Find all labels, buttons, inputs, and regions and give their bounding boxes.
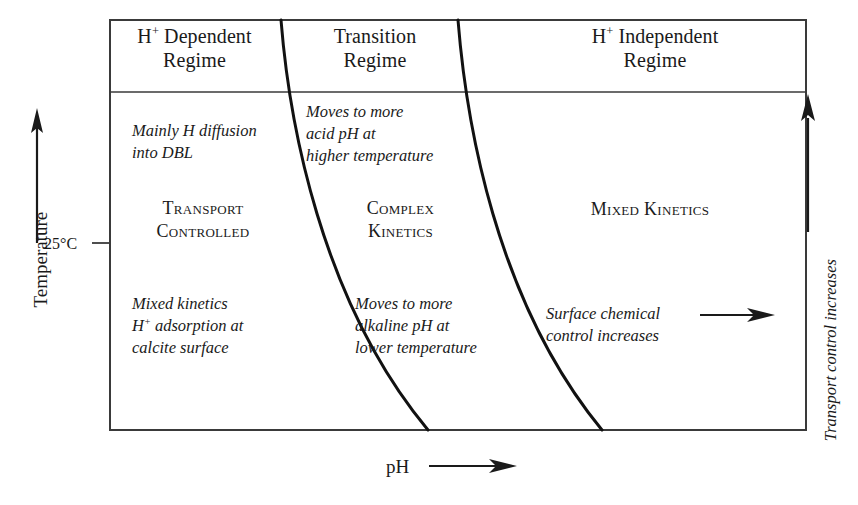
h-independent-suffix: Independent [613, 25, 718, 47]
transport-control-label: Transport control increases [821, 235, 841, 465]
note-surface-line2: control increases [546, 325, 726, 347]
right-boundary-curve [458, 20, 602, 430]
h-dependent-suffix: Dependent [159, 25, 252, 47]
label-transport-controlled: Transport Controlled [128, 197, 278, 244]
temperature-tick-label: 25°C [44, 234, 77, 254]
label-mixed-kinetics-line1: Mixed Kinetics [530, 198, 770, 221]
label-transport-line1: Transport [128, 197, 278, 220]
h-plus-prefix: H [137, 25, 152, 47]
note-alkaline-line1: Moves to more [355, 293, 550, 315]
regime-title-transition: Transition Regime [300, 24, 450, 73]
label-complex-line2: Kinetics [333, 220, 468, 243]
note-acid-line2: acid pH at [306, 123, 506, 145]
regime-title-h-dependent: H+ Dependent Regime [112, 24, 277, 73]
regime-title-transition-line2: Regime [300, 48, 450, 72]
diagram-graphics [0, 0, 858, 505]
regime-title-h-independent-line2: Regime [540, 48, 770, 72]
note-mainly-h-diffusion: Mainly H diffusion into DBL [132, 120, 297, 164]
note-mainly-line2: into DBL [132, 142, 297, 164]
note-acid-line1: Moves to more [306, 101, 506, 123]
label-complex-line1: Complex [333, 197, 468, 220]
h-plus-prefix-2: H [592, 25, 607, 47]
note-alkaline-line3: lower temperature [355, 337, 550, 359]
ph-axis-arrow [429, 459, 517, 473]
label-complex-kinetics: Complex Kinetics [333, 197, 468, 244]
note-mixed-line1: Mixed kinetics [132, 293, 307, 315]
note-surface-chemical-control: Surface chemical control increases [546, 303, 726, 347]
note-moves-acid-ph: Moves to more acid pH at higher temperat… [306, 101, 506, 166]
note-moves-alkaline-ph: Moves to more alkaline pH at lower tempe… [355, 293, 550, 358]
regime-title-h-dependent-line2: Regime [112, 48, 277, 72]
note-mixed-line2: H+ adsorption at [132, 315, 307, 337]
regime-title-h-independent-line1: H+ Independent [540, 24, 770, 48]
transport-control-arrow [801, 94, 815, 232]
label-mixed-kinetics: Mixed Kinetics [530, 198, 770, 221]
diagram-canvas: H+ Dependent Regime Transition Regime H+… [0, 0, 858, 505]
regime-title-h-dependent-line1: H+ Dependent [112, 24, 277, 48]
note-acid-line3: higher temperature [306, 145, 506, 167]
note-mixed-line2-suffix: adsorption at [151, 316, 244, 335]
note-alkaline-line2: alkaline pH at [355, 315, 550, 337]
note-mixed-line3: calcite surface [132, 337, 307, 359]
regime-title-transition-line1: Transition [300, 24, 450, 48]
h-plus-superscript-icon-3: + [144, 315, 151, 326]
ph-axis-label: pH [386, 455, 409, 478]
temperature-axis-label: Temperature [29, 175, 52, 345]
label-transport-line2: Controlled [128, 220, 278, 243]
h-plus-prefix-3: H [132, 316, 144, 335]
note-mixed-kinetics-adsorption: Mixed kinetics H+ adsorption at calcite … [132, 293, 307, 358]
note-surface-line1: Surface chemical [546, 303, 726, 325]
note-mainly-line1: Mainly H diffusion [132, 120, 297, 142]
regime-title-h-independent: H+ Independent Regime [540, 24, 770, 73]
h-plus-superscript-icon: + [152, 24, 159, 38]
